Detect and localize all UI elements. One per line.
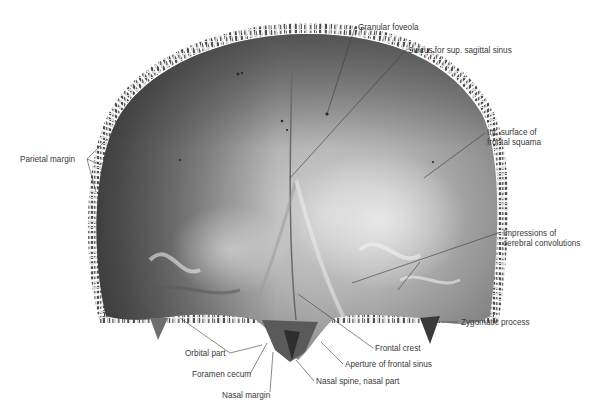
label-line-1: Int. surface of	[487, 128, 541, 138]
leader-nasal-margin	[270, 352, 273, 392]
label-zygomatic-process: Zygomatic process	[461, 318, 530, 328]
zygomatic-process-shape	[420, 316, 440, 344]
leader-nasal-spine	[296, 360, 314, 381]
highlight-right	[295, 150, 465, 290]
label-line-1: Impressions of	[503, 229, 580, 239]
leader-orbital-part	[230, 345, 262, 353]
label-foramen-cecum: Foramen cecum	[192, 370, 251, 380]
leader-orbital-part-2	[180, 318, 230, 353]
label-frontal-crest: Frontal crest	[375, 344, 421, 354]
left-orbital-spur	[150, 318, 168, 340]
label-line-2: cerebral convolutions	[503, 239, 580, 249]
label-aperture-frontal-sinus: Aperture of frontal sinus	[345, 360, 432, 370]
label-int-surface-frontal-squama: Int. surface of frontal squama	[487, 128, 541, 148]
label-granular-foveola: Granular foveola	[358, 23, 419, 33]
frontal-bone-figure	[0, 0, 603, 414]
highlight-left	[170, 205, 290, 295]
label-sulcus-sup-sagittal-sinus: Sulcus for sup. sagittal sinus	[408, 46, 512, 56]
label-nasal-spine-nasal-part: Nasal spine, nasal part	[316, 377, 399, 387]
label-impressions-cerebral-convolutions: Impressions of cerebral convolutions	[503, 229, 580, 249]
label-parietal-margin: Parietal margin	[20, 155, 75, 165]
label-nasal-margin: Nasal margin	[222, 391, 270, 401]
label-orbital-part: Orbital part	[185, 349, 226, 359]
leader-aperture	[321, 342, 343, 364]
label-line-2: frontal squama	[487, 138, 541, 148]
